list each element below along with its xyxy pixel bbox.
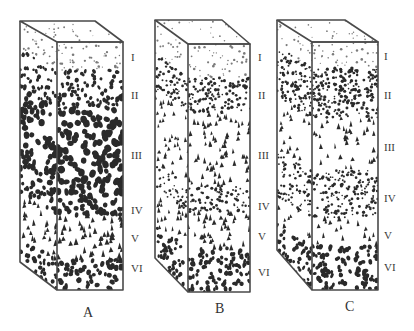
horizon-label-b-1: I [258,52,262,63]
horizon-label-c-6: VI [384,262,396,273]
column-label-c: C [345,300,354,314]
soil-profile-figure: I II III IV V VI I II III IV V VI I II I… [0,0,414,331]
horizon-label-b-6: VI [258,267,270,278]
horizon-label-b-5: V [258,231,266,242]
horizon-label-c-5: V [384,230,392,241]
horizon-label-a-3: III [131,150,142,161]
top-face [276,20,373,41]
front-face [310,42,380,293]
horizon-label-c-4: IV [384,193,396,204]
front-face [53,41,125,293]
column-label-b: B [215,302,224,316]
soil-columns-drawing [0,0,414,331]
soil-column-a [17,21,126,293]
horizon-label-c-3: III [384,142,395,153]
left-face [17,26,60,290]
horizon-label-a-2: II [131,90,138,101]
front-face [187,44,252,294]
top-face [19,22,117,42]
prism-top-outline [155,20,250,44]
left-face [275,24,314,291]
horizon-label-a-6: VI [131,263,143,274]
horizon-label-a-4: IV [131,205,143,216]
soil-column-b [153,19,252,293]
prism-top-outline [20,21,123,42]
horizon-label-b-3: III [258,150,269,161]
column-label-a: A [83,306,93,320]
horizon-label-b-4: IV [258,201,270,212]
horizon-label-c-1: I [384,51,388,62]
horizon-label-b-2: II [258,90,265,101]
left-face [153,26,190,287]
horizon-label-c-2: II [384,90,391,101]
horizon-label-a-1: I [131,52,135,63]
soil-column-c [275,20,380,293]
horizon-label-a-5: V [131,233,139,244]
